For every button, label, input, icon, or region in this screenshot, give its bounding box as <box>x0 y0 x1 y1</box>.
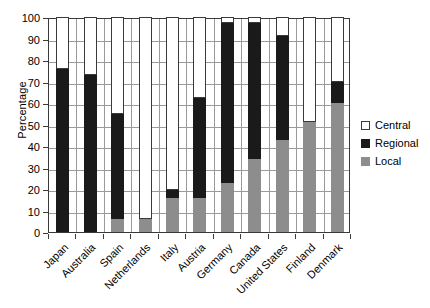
legend-item-local[interactable]: Local <box>361 153 430 169</box>
bar-segment-local[interactable] <box>139 219 152 232</box>
bar-segment-local[interactable] <box>193 198 206 232</box>
bar-segment-local[interactable] <box>248 159 261 232</box>
bar-column <box>104 19 131 232</box>
bar-segment-regional[interactable] <box>331 82 344 104</box>
y-axis-tick-label: 80 <box>0 55 40 67</box>
bar-column <box>49 19 76 232</box>
stacked-bar[interactable] <box>139 17 152 232</box>
legend-item-regional[interactable]: Regional <box>361 135 430 151</box>
y-axis-tick-label: 30 <box>0 163 40 175</box>
y-axis-tick-label: 20 <box>0 184 40 196</box>
x-axis-tick-mark <box>185 234 186 239</box>
x-axis-tick-mark <box>268 234 269 239</box>
y-axis-tick-label: 50 <box>0 120 40 132</box>
bar-segment-central[interactable] <box>84 17 97 75</box>
stacked-bar[interactable] <box>331 17 344 232</box>
y-axis-tick-label: 10 <box>0 206 40 218</box>
stacked-bar[interactable] <box>276 17 289 232</box>
stacked-bar[interactable] <box>84 17 97 232</box>
bar-segment-regional[interactable] <box>84 75 97 232</box>
bar-segment-central[interactable] <box>331 17 344 82</box>
x-axis-tick-mark <box>130 234 131 239</box>
bar-column <box>269 19 296 232</box>
bar-segment-regional[interactable] <box>221 23 234 182</box>
bar-column <box>241 19 268 232</box>
legend-label: Local <box>375 156 401 167</box>
bar-column <box>186 19 213 232</box>
x-axis-tick-mark <box>295 234 296 239</box>
legend-label: Central <box>375 120 410 131</box>
bar-segment-regional[interactable] <box>248 23 261 158</box>
legend-swatch-local-icon <box>361 157 370 166</box>
x-axis-tick-mark <box>158 234 159 239</box>
bar-segment-regional[interactable] <box>166 190 179 198</box>
bar-segment-central[interactable] <box>56 17 69 69</box>
x-axis-tick-mark <box>75 234 76 239</box>
stacked-bar[interactable] <box>56 17 69 232</box>
legend-item-central[interactable]: Central <box>361 117 430 133</box>
bar-segment-central[interactable] <box>139 17 152 219</box>
bar-segment-local[interactable] <box>331 103 344 232</box>
legend-swatch-regional-icon <box>361 139 370 148</box>
bar-column <box>214 19 241 232</box>
stacked-bar[interactable] <box>111 17 124 232</box>
bar-segment-central[interactable] <box>276 17 289 36</box>
bar-segment-central[interactable] <box>166 17 179 190</box>
x-axis-tick-mark <box>48 234 49 239</box>
bar-segment-local[interactable] <box>166 198 179 232</box>
y-axis-tick-label: 60 <box>0 98 40 110</box>
legend-label: Regional <box>375 138 418 149</box>
bar-segment-local[interactable] <box>221 183 234 232</box>
bar-column <box>131 19 158 232</box>
y-axis-tick-label: 90 <box>0 34 40 46</box>
bar-column <box>324 19 351 232</box>
plot-area <box>48 18 350 233</box>
x-axis-tick-mark <box>213 234 214 239</box>
chart-legend: CentralRegionalLocal <box>361 117 430 171</box>
stacked-bar[interactable] <box>248 17 261 232</box>
x-axis-tick-mark <box>240 234 241 239</box>
bar-segment-regional[interactable] <box>193 98 206 198</box>
stacked-bar[interactable] <box>193 17 206 232</box>
bar-segment-central[interactable] <box>193 17 206 98</box>
legend-swatch-central-icon <box>361 121 370 130</box>
stacked-bar[interactable] <box>166 17 179 232</box>
bar-segment-central[interactable] <box>303 17 316 122</box>
bar-column <box>159 19 186 232</box>
y-axis-tick-label: 100 <box>0 12 40 24</box>
stacked-bar[interactable] <box>221 17 234 232</box>
x-axis-tick-mark <box>350 234 351 239</box>
bar-column <box>76 19 103 232</box>
stacked-bar[interactable] <box>303 17 316 232</box>
chart-root: Percentage 0102030405060708090100 JapanA… <box>0 0 430 308</box>
y-axis-tick-label: 0 <box>0 227 40 239</box>
bar-segment-regional[interactable] <box>56 69 69 232</box>
bar-column <box>296 19 323 232</box>
bar-segment-regional[interactable] <box>276 36 289 139</box>
bar-segment-central[interactable] <box>111 17 124 114</box>
y-axis-tick-label: 40 <box>0 141 40 153</box>
bar-segment-local[interactable] <box>276 140 289 232</box>
x-axis-tick-mark <box>103 234 104 239</box>
bar-segment-regional[interactable] <box>111 114 124 219</box>
y-axis-tick-label: 70 <box>0 77 40 89</box>
bar-segment-local[interactable] <box>111 219 124 232</box>
x-axis-tick-mark <box>323 234 324 239</box>
bar-segment-local[interactable] <box>303 122 316 232</box>
